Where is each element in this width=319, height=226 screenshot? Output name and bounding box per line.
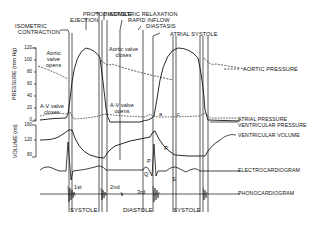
label-diastole: DIASTOLE [123, 207, 153, 213]
volume-axis-label: VOLUME (ml) [12, 124, 18, 158]
pressure-tick-80: 80 [18, 69, 32, 74]
legend-phonocardiogram: PHONOCARDIOGRAM [238, 191, 294, 197]
label-systole-1: SYSTOLE [70, 207, 98, 213]
heart-sound-1st: 1st [74, 184, 82, 190]
pressure-tick-60: 60 [18, 81, 32, 86]
legend-ventricular-pressure: VENTRICULAR PRESSURE [238, 123, 307, 129]
annot-av-valve-closes: A-V valve closes [40, 104, 64, 116]
annot-aortic-valve-closes: Aortic valve closes [109, 47, 138, 59]
annot-c-wave: c [177, 111, 180, 117]
ecg-label-q: Q [144, 171, 148, 177]
label-atrial-systole: ATRIAL SYSTOLE [170, 31, 218, 37]
volume-tick-160: 160 [18, 122, 32, 127]
label-systole-2: SYSTOLE [173, 207, 201, 213]
ecg-label-s: S [172, 176, 176, 182]
wiggers-diagram: PROTODIASTOLE EJECTION ISOMETRIC CONTRAC… [0, 0, 319, 226]
ecg-label-p: P [147, 158, 151, 164]
label-isometric-contraction-l2: CONTRACTION [18, 29, 60, 35]
label-ejection: EJECTION [70, 17, 98, 23]
annot-aortic-valve-opens: Aortic valve opens [46, 51, 61, 68]
annot-line: opens [110, 109, 134, 115]
aortic-pressure-curve-3 [204, 58, 245, 69]
pressure-tick-120: 120 [18, 45, 32, 50]
annot-line: opens [46, 63, 61, 69]
ventricular-pressure-curve [40, 48, 240, 122]
annot-line: closes [109, 53, 138, 59]
pressure-tick-20: 20 [18, 105, 32, 110]
pressure-tick-100: 100 [18, 57, 32, 62]
ecg-label-r: R [164, 145, 168, 151]
ecg-trace [40, 142, 240, 180]
legend-electrocardiogram: ELECTROCARDIOGRAM [238, 168, 300, 174]
pressure-tick-40: 40 [18, 93, 32, 98]
heart-sound-2nd: 2nd [110, 184, 120, 190]
heart-sound-3rd: 3rd [137, 189, 145, 195]
pressure-axis-label: PRESSURE (mm Hg) [11, 48, 17, 100]
legend-aortic-pressure: AORTIC PRESSURE [243, 66, 298, 72]
label-diastasis: DIASTASIS [146, 23, 176, 29]
annot-av-valve-opens: A-V valve opens [110, 103, 134, 115]
volume-tick-80: 80 [18, 152, 32, 157]
volume-tick-120: 120 [18, 137, 32, 142]
annot-a-wave: a [159, 111, 162, 117]
legend-ventricular-volume: VENTRICULAR VOLUME [238, 133, 300, 139]
atrial-pressure-curve [40, 112, 240, 119]
annot-line: closes [40, 110, 64, 116]
